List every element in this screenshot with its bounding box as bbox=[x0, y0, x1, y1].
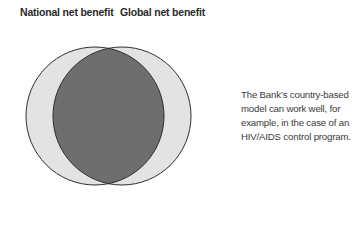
annotation-text: The Bank’s country-based model can work … bbox=[241, 88, 359, 144]
